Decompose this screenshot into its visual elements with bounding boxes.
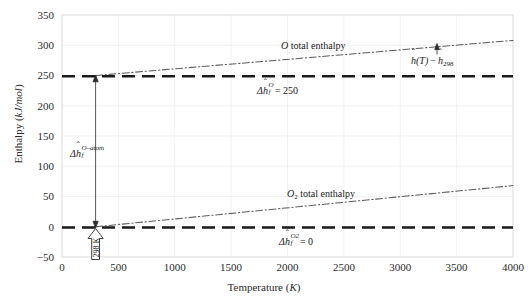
x-tick-500: 500 (98, 261, 138, 273)
hat-accent-t: ˆ (411, 49, 416, 59)
reference-temperature-label: 298 K (92, 232, 101, 264)
hat-accent-o2: ˆ (285, 230, 290, 240)
o-total-enthalpy-label: O total enthalpy (281, 40, 345, 51)
delta-hf-o-label: ΔˆhfO= 250 (257, 84, 298, 96)
hf-superscript-o: O (268, 81, 273, 89)
x-tick-3500: 3500 (437, 261, 477, 273)
x-tick-3000: 3000 (380, 261, 420, 273)
delta-hf-o-equals: = 250 (275, 85, 298, 96)
formation-enthalpy-label: ΔˆhfO–atom (70, 147, 81, 159)
y-axis-title: Enthalpy (kJ/mol) (12, 54, 24, 194)
sensible-minus: − (430, 55, 436, 66)
hf-superscript-atom: O–atom (81, 144, 104, 152)
hat-accent-298: ˆ (438, 49, 443, 59)
h-hat-o2: ˆh (285, 236, 290, 247)
x-tick-2000: 2000 (268, 261, 308, 273)
x-axis-title-main: Temperature ( (228, 281, 290, 293)
x-axis-title-close: ) (297, 281, 301, 293)
x-tick-2500: 2500 (324, 261, 364, 273)
enthalpy-chart: 350 300 250 200 150 100 50 0 −50 0 500 1… (0, 0, 528, 302)
y-axis-title-unit: kJ/mol (12, 88, 24, 117)
x-axis-title-unit: K (289, 281, 296, 293)
sensible-subscript: 298 (443, 60, 454, 68)
x-tick-4000: 4000 (493, 261, 528, 273)
y-axis-title-close: ) (12, 84, 24, 88)
delta-hf-o2-equals: = 0 (300, 236, 313, 247)
hf-superscript-o2: O2 (290, 232, 299, 240)
x-axis-title: Temperature (K) (0, 281, 528, 293)
hat-accent-o: ˆ (263, 79, 268, 89)
x-tick-0: 0 (42, 261, 82, 273)
x-tick-1500: 1500 (211, 261, 251, 273)
hat-accent-atom: ˆ (76, 142, 81, 152)
delta-hf-o2-label: ΔˆhfO2= 0 (279, 235, 313, 247)
h-hat-atom: ˆh (76, 148, 81, 159)
sensible-enthalpy-label: ˆh(T)−ˆh298 (411, 55, 453, 68)
h-hat-298: ˆh (438, 55, 443, 66)
o2-total-enthalpy-rest: total enthalpy (298, 188, 355, 199)
o-total-enthalpy-rest: total enthalpy (288, 40, 345, 51)
y-tick-350: 350 (18, 9, 54, 21)
sensible-arg: (T) (416, 55, 428, 66)
h-hat-o: ˆh (263, 85, 268, 96)
h-hat-t: ˆh (411, 55, 416, 66)
y-tick-0: 0 (18, 221, 54, 233)
o2-total-enthalpy-label: O2 total enthalpy (287, 188, 355, 201)
x-tick-1000: 1000 (155, 261, 195, 273)
y-tick-300: 300 (18, 39, 54, 51)
y-axis-title-main: Enthalpy ( (12, 117, 24, 163)
